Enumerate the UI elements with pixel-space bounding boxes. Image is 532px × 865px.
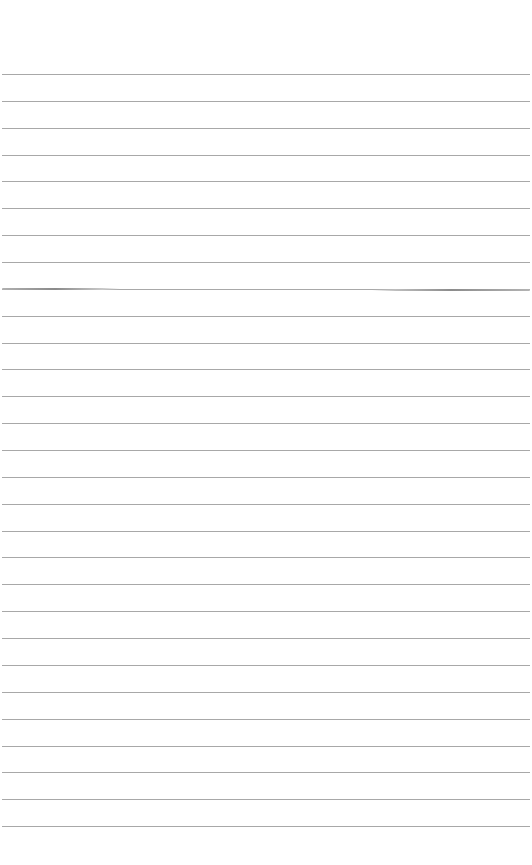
ruled-line bbox=[2, 611, 530, 612]
ruled-line bbox=[2, 316, 530, 317]
ruled-line bbox=[2, 235, 530, 236]
ruled-line bbox=[2, 665, 530, 666]
left-smudge bbox=[2, 288, 120, 290]
ruled-line bbox=[2, 531, 530, 532]
ruled-line bbox=[2, 772, 530, 773]
ruled-line bbox=[2, 504, 530, 505]
ruled-line bbox=[2, 719, 530, 720]
ruled-line bbox=[2, 746, 530, 747]
ruled-line bbox=[2, 423, 530, 424]
ruled-line bbox=[2, 74, 530, 75]
ruled-line bbox=[2, 799, 530, 800]
ruled-line bbox=[2, 692, 530, 693]
ruled-line bbox=[2, 369, 530, 370]
ruled-line bbox=[2, 208, 530, 209]
ruled-line bbox=[2, 477, 530, 478]
ruled-line bbox=[2, 262, 530, 263]
lined-paper bbox=[0, 0, 532, 865]
ruled-line bbox=[2, 826, 530, 827]
ruled-line bbox=[2, 450, 530, 451]
ruled-line bbox=[2, 101, 530, 102]
ruled-line bbox=[2, 128, 530, 129]
right-smudge bbox=[372, 289, 530, 291]
ruled-line bbox=[2, 396, 530, 397]
ruled-line bbox=[2, 155, 530, 156]
ruled-line bbox=[2, 343, 530, 344]
ruled-line bbox=[2, 584, 530, 585]
ruled-line bbox=[2, 557, 530, 558]
ruled-line bbox=[2, 638, 530, 639]
ruled-line bbox=[2, 181, 530, 182]
